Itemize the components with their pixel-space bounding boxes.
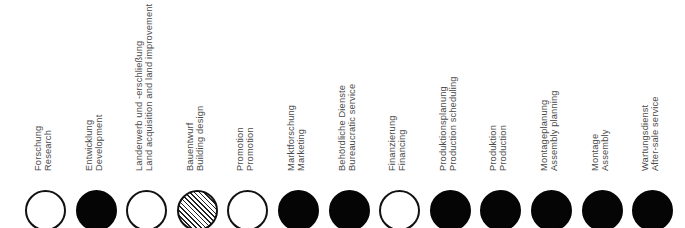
phase-status-filled-circle-icon [632,190,673,228]
phase-status-filled-circle-icon [531,190,572,228]
phase-label-german: Produktion [488,125,498,171]
phase-label: PromotionPromotion [235,127,255,171]
phase-column: EntwicklungDevelopment [76,0,126,228]
phase-status-filled-circle-icon [430,190,471,228]
phase-column: BauentwurfBuilding design [177,0,227,228]
phase-status-open-circle-icon [379,190,420,228]
phase-label-german: Promotion [235,127,245,171]
phase-status-filled-circle-icon [480,190,521,228]
phase-column: ProduktionProduction [480,0,530,228]
phase-label: FinanzierungFinancing [387,115,407,171]
phase-label-english: Production [498,125,508,171]
phase-column: Behördliche DiensteBureaucratic service [329,0,379,228]
phase-label: MontageAssembly [590,130,610,172]
phase-label: MontageplanungAssembly planning [539,90,559,171]
phase-label-english: Marketing [296,105,306,171]
phase-label: Behördliche DiensteBureaucratic service [337,84,357,171]
phase-label-english: Development [94,115,104,171]
phase-label-english: Assembly planning [549,90,559,171]
process-phase-diagram: ForschungResearchEntwicklungDevelopmentL… [0,0,685,228]
phase-status-hatched-circle-icon [177,190,218,228]
phase-label-german: Behördliche Dienste [337,84,347,171]
phase-column: ProduktionsplanungProduction scheduling [430,0,480,228]
phase-label-english: Production scheduling [448,76,458,171]
phase-column: MarktforschungMarketing [278,0,328,228]
phase-label: EntwicklungDevelopment [84,115,104,171]
phase-label-english: Promotion [245,127,255,171]
phase-column: FinanzierungFinancing [379,0,429,228]
phase-label-english: Assembly [600,130,610,172]
phase-label: MarktforschungMarketing [286,105,306,171]
phase-column: PromotionPromotion [227,0,277,228]
phase-label-german: Produktionsplanung [438,76,448,171]
phase-label: Landerwerb und -erschließungLand acquisi… [134,4,154,171]
phase-label-german: Landerwerb und -erschließung [134,4,144,171]
phase-status-filled-circle-icon [278,190,319,228]
phase-label: ProduktionProduction [488,125,508,171]
phase-status-open-circle-icon [227,190,268,228]
phase-label-english: Land acquisition and land improvement [144,4,154,171]
phase-label: BauentwurfBuilding design [185,106,205,171]
phase-column: Landerwerb und -erschließungLand acquisi… [126,0,176,228]
phase-label: WartungsdienstAfter-sale service [640,96,660,171]
phase-status-filled-circle-icon [76,190,117,228]
phase-column: WartungsdienstAfter-sale service [632,0,682,228]
phase-label-german: Forschung [33,126,43,171]
phase-label-german: Finanzierung [387,115,397,171]
phase-column: MontageplanungAssembly planning [531,0,581,228]
phase-status-open-circle-icon [126,190,167,228]
phase-label-english: After-sale service [650,96,660,171]
phase-label-german: Montage [590,130,600,172]
phase-label-english: Research [43,126,53,171]
phase-label-german: Montageplanung [539,90,549,171]
phase-label-english: Financing [397,115,407,171]
phase-label-german: Bauentwurf [185,106,195,171]
phase-label: ForschungResearch [33,126,53,171]
phase-column: MontageAssembly [582,0,632,228]
phase-label-german: Entwicklung [84,115,94,171]
phase-label-german: Marktforschung [286,105,296,171]
phase-column: ForschungResearch [25,0,75,228]
phase-status-filled-circle-icon [329,190,370,228]
phase-label: ProduktionsplanungProduction scheduling [438,76,458,171]
phase-label-german: Wartungsdienst [640,96,650,171]
phase-label-english: Bureaucratic service [347,84,357,171]
phase-status-open-circle-icon [25,190,66,228]
phase-label-english: Building design [195,106,205,171]
phase-status-filled-circle-icon [582,190,623,228]
